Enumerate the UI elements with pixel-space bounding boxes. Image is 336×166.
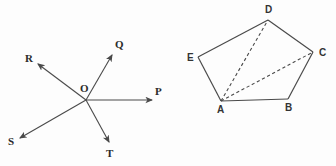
label-T: T	[106, 147, 114, 159]
label-C: C	[319, 47, 326, 58]
edge-AB	[221, 99, 288, 101]
label-O: O	[80, 82, 89, 94]
label-E: E	[187, 52, 194, 63]
label-R: R	[25, 52, 34, 64]
edge-CD	[268, 20, 313, 52]
ray-T	[86, 100, 109, 142]
label-Q: Q	[115, 38, 124, 50]
pentagon-edges-group	[198, 20, 313, 101]
figure-page: O P Q R S T A B	[0, 0, 336, 166]
pentagon-labels-group: A B C D E	[187, 4, 326, 115]
pentagon-diagram-canvas: A B C D E	[168, 0, 336, 166]
ray-R	[38, 64, 86, 100]
ray-Q	[86, 55, 112, 100]
rays-group	[20, 55, 152, 142]
label-B: B	[285, 102, 292, 113]
label-D: D	[265, 4, 272, 15]
ray-diagram-figure: O P Q R S T	[0, 0, 168, 166]
pentagon-diagram-figure: A B C D E	[168, 0, 336, 166]
ray-labels-group: O P Q R S T	[8, 38, 162, 159]
pentagon-diagonals-group	[221, 20, 313, 101]
diagonal-AC	[221, 52, 313, 101]
edge-EA	[198, 57, 221, 101]
ray-S	[20, 100, 86, 138]
ray-diagram-canvas: O P Q R S T	[0, 0, 168, 166]
label-P: P	[155, 85, 162, 97]
label-A: A	[217, 104, 224, 115]
label-S: S	[8, 135, 14, 147]
